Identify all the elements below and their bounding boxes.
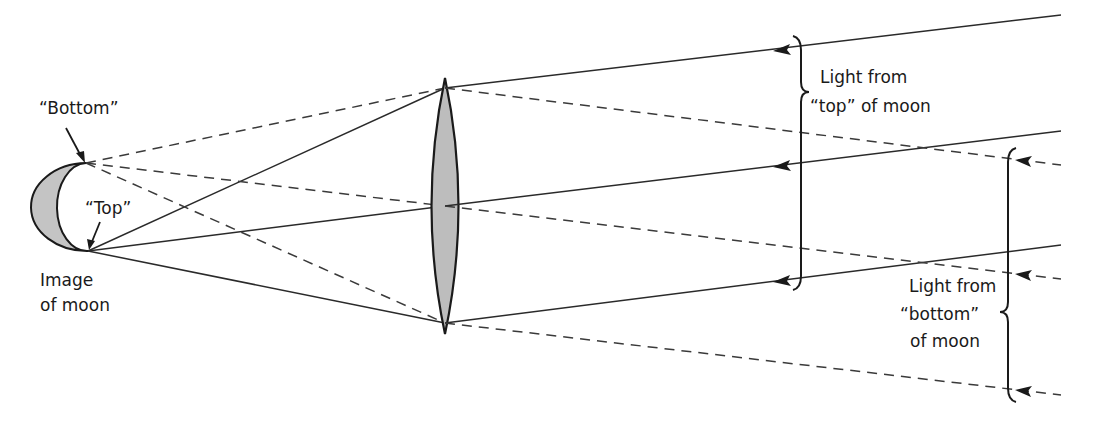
label-image-line2: of moon [40,291,110,319]
label-light-bottom-line2: “bottom” [900,300,979,328]
bottom-pointer-arrow [66,128,85,163]
label-image-line1: Image [40,266,93,294]
moon-image [31,163,88,251]
label-light-bottom-line3: of moon [910,327,980,355]
arrow-icon [1015,156,1032,167]
dashed-rays-left [86,88,445,323]
label-top: “Top” [85,194,131,222]
label-light-top-line1: Light from [820,63,907,91]
label-light-bottom-line1: Light from [909,272,996,300]
label-bottom: “Bottom” [39,94,118,122]
brace-bottom-light [1000,148,1016,402]
arrow-icon [1015,386,1032,397]
arrow-icon [1015,270,1032,281]
lens-ray-diagram [0,0,1094,428]
label-light-top-line2: “top” of moon [810,92,931,120]
solid-rays-left [88,88,445,323]
